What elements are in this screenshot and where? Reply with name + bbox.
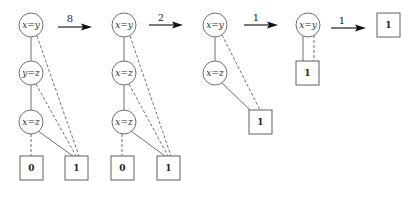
reduction-diagram: x=y y=z x=z 0 1 8 x=y xyxy=(0,0,418,198)
stage-2: x=y x=z x=z 0 1 xyxy=(111,13,180,180)
edge-dashed xyxy=(130,36,171,156)
decision-node: x=y xyxy=(112,13,136,37)
node-label: y=z xyxy=(21,68,40,78)
terminal-node: 1 xyxy=(377,13,400,37)
terminal-node: 1 xyxy=(249,110,272,134)
decision-node: x=z xyxy=(112,110,136,134)
edge-solid xyxy=(222,83,250,110)
decision-node: y=z xyxy=(19,61,43,85)
decision-node: x=z xyxy=(203,61,227,85)
node-label: x=y xyxy=(206,20,225,30)
stage-3: x=y x=z 1 xyxy=(203,13,272,134)
stage-1: x=y y=z x=z 0 1 xyxy=(19,13,88,180)
stage-5: 1 xyxy=(377,13,400,37)
node-label: x=z xyxy=(22,117,40,127)
terminal-label: 1 xyxy=(73,163,79,173)
node-label: x=y xyxy=(299,20,318,30)
terminal-node: 1 xyxy=(65,156,88,180)
terminal-label: 1 xyxy=(165,163,171,173)
node-label: x=z xyxy=(206,68,224,78)
step-count: 1 xyxy=(253,12,259,23)
node-label: x=z xyxy=(115,117,133,127)
node-label: x=y xyxy=(22,20,41,30)
step-count: 1 xyxy=(339,15,345,26)
node-label: x=z xyxy=(115,68,133,78)
transition-arrow: 1 xyxy=(244,12,278,29)
terminal-label: 1 xyxy=(385,20,391,30)
node-label: x=y xyxy=(115,20,134,30)
terminal-node: 0 xyxy=(111,156,134,180)
decision-node: x=y xyxy=(296,13,320,37)
edge-solid xyxy=(38,131,73,156)
terminal-node: 0 xyxy=(20,156,43,180)
terminal-node: 1 xyxy=(296,61,319,85)
stage-4: x=y 1 xyxy=(296,13,320,85)
terminal-label: 1 xyxy=(257,117,263,127)
decision-node: x=z xyxy=(19,110,43,134)
terminal-label: 1 xyxy=(304,68,310,78)
edge-solid xyxy=(131,131,165,156)
transition-arrow: 2 xyxy=(149,12,183,29)
terminal-label: 0 xyxy=(28,163,34,173)
terminal-label: 0 xyxy=(119,163,125,173)
step-count: 2 xyxy=(158,12,164,23)
edge-dashed xyxy=(222,35,260,110)
transition-arrow: 1 xyxy=(331,15,366,32)
decision-node: x=y xyxy=(19,13,43,37)
terminal-node: 1 xyxy=(157,156,180,180)
decision-node: x=z xyxy=(112,61,136,85)
transition-arrow: 8 xyxy=(58,13,92,31)
step-count: 8 xyxy=(67,13,73,24)
edge-dashed xyxy=(37,36,79,156)
decision-node: x=y xyxy=(203,13,227,37)
